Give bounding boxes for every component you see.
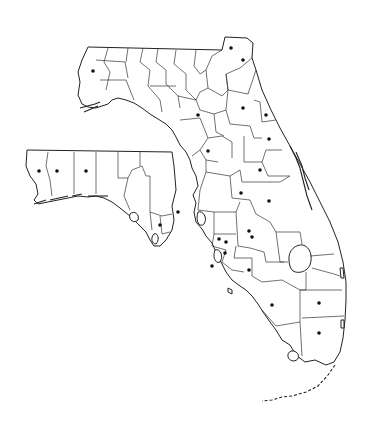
- location-marker: [317, 301, 321, 305]
- location-marker: [37, 169, 41, 173]
- gulf-island: [228, 288, 232, 294]
- inset-outline: [26, 150, 176, 246]
- location-marker: [84, 169, 88, 173]
- main-map: [78, 37, 346, 401]
- location-marker: [258, 168, 262, 172]
- location-marker: [91, 69, 95, 73]
- location-marker: [206, 149, 210, 153]
- location-marker: [176, 210, 180, 214]
- location-marker: [196, 113, 200, 117]
- location-marker: [247, 268, 251, 272]
- keys-island: [288, 351, 299, 361]
- barrier-island: [340, 268, 344, 278]
- location-marker: [223, 251, 227, 255]
- florida-county-map: [0, 0, 366, 433]
- location-marker: [241, 106, 245, 110]
- location-marker: [267, 137, 271, 141]
- location-marker: [250, 235, 254, 239]
- location-marker: [229, 46, 233, 50]
- location-marker: [317, 331, 321, 335]
- location-marker: [247, 229, 251, 233]
- location-marker: [267, 199, 271, 203]
- panhandle-inset: [26, 150, 176, 246]
- location-marker: [239, 191, 243, 195]
- location-marker: [217, 237, 221, 241]
- location-marker: [210, 264, 214, 268]
- location-marker: [55, 169, 59, 173]
- florida-keys: [262, 365, 335, 401]
- barrier-island: [341, 320, 344, 328]
- location-marker: [158, 223, 162, 227]
- inset-bay: [130, 212, 139, 221]
- charlotte-harbor: [214, 250, 222, 263]
- location-marker: [241, 58, 245, 62]
- location-marker: [224, 240, 228, 244]
- location-marker: [264, 113, 268, 117]
- inset-bay: [152, 234, 158, 244]
- location-marker: [270, 303, 274, 307]
- lake-okeechobee: [289, 245, 311, 272]
